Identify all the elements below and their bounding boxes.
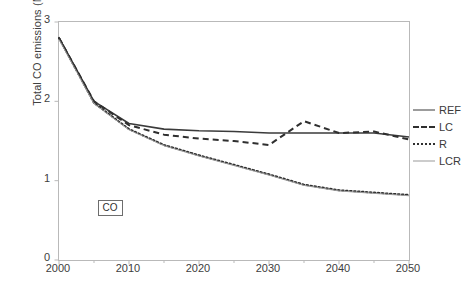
y-tick-label-3: 3: [30, 13, 50, 25]
x-tick-label-2000: 2000: [34, 262, 82, 274]
legend-label: R: [439, 138, 447, 150]
legend-swatch-lcr-icon: [413, 155, 435, 166]
x-tick-label-2040: 2040: [314, 262, 362, 274]
x-axis-tick-labels: 200020102020203020402050: [0, 262, 475, 282]
x-tick-label-2030: 2030: [244, 262, 292, 274]
y-tick-label-1: 1: [30, 172, 50, 184]
legend-item-r[interactable]: R: [413, 135, 475, 152]
x-tick-label-2010: 2010: [104, 262, 152, 274]
y-tick-label-2: 2: [30, 92, 50, 104]
x-tick-label-2050: 2050: [384, 262, 432, 274]
plot-area: CO: [58, 21, 410, 261]
legend-item-lc[interactable]: LC: [413, 118, 475, 135]
legend-label: LC: [439, 121, 453, 133]
y-axis-tick-labels: 0123: [22, 0, 50, 297]
series-line-lcr: [59, 39, 409, 195]
legend-swatch-lc-icon: [413, 121, 435, 132]
legend-label: LCR: [439, 155, 461, 167]
series-line-lc: [59, 38, 409, 145]
annotation-co: CO: [98, 200, 123, 216]
legend-swatch-ref-icon: [413, 104, 435, 115]
series-canvas: [58, 21, 410, 261]
legend-item-lcr[interactable]: LCR: [413, 152, 475, 169]
x-tick-label-2020: 2020: [174, 262, 222, 274]
series-line-ref: [59, 38, 409, 137]
legend: REFLCRLCR: [413, 101, 475, 169]
legend-swatch-r-icon: [413, 138, 435, 149]
emissions-line-chart: Total CO emissions (Mt) 0123 CO 20002010…: [0, 0, 475, 297]
legend-label: REF: [439, 104, 461, 116]
legend-item-ref[interactable]: REF: [413, 101, 475, 118]
